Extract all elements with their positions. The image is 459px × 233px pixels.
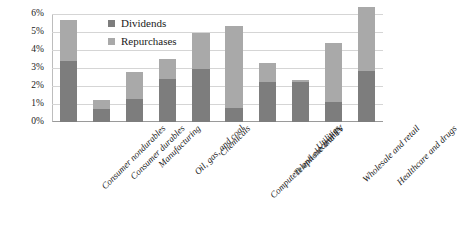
y-axis-tick-label: 5% bbox=[31, 27, 44, 37]
bar-segment-dividends bbox=[60, 61, 77, 122]
legend-item: Dividends bbox=[108, 18, 177, 29]
bars-layer bbox=[52, 14, 383, 122]
plot-area bbox=[52, 14, 383, 122]
bar-group bbox=[192, 33, 209, 122]
bar-segment-repurchases bbox=[292, 80, 309, 83]
legend-item: Repurchases bbox=[108, 36, 177, 47]
y-axis-tick-label: 2% bbox=[31, 81, 44, 91]
bar-group bbox=[358, 7, 375, 122]
bar-segment-repurchases bbox=[259, 63, 276, 83]
bar-group bbox=[159, 59, 176, 122]
bar-segment-repurchases bbox=[192, 33, 209, 69]
bar-segment-repurchases bbox=[93, 100, 110, 110]
bar-segment-dividends bbox=[159, 79, 176, 122]
bar-segment-repurchases bbox=[325, 43, 342, 102]
bar-segment-repurchases bbox=[358, 7, 375, 71]
legend-label: Dividends bbox=[121, 18, 166, 29]
bar-group bbox=[126, 72, 143, 122]
bar-segment-dividends bbox=[93, 109, 110, 122]
bar-segment-dividends bbox=[259, 82, 276, 122]
bar-segment-dividends bbox=[292, 82, 309, 122]
bar-segment-dividends bbox=[358, 71, 375, 122]
chart-legend: DividendsRepurchases bbox=[108, 18, 177, 54]
bar-group bbox=[325, 43, 342, 122]
bar-segment-repurchases bbox=[126, 72, 143, 99]
bar-group bbox=[292, 80, 309, 122]
legend-label: Repurchases bbox=[121, 36, 177, 47]
bar-segment-dividends bbox=[192, 69, 209, 122]
bar-group bbox=[259, 63, 276, 122]
bar-segment-dividends bbox=[225, 108, 242, 122]
y-axis-tick-label: 0% bbox=[31, 117, 44, 127]
y-axis-tick-label: 6% bbox=[31, 9, 44, 19]
bar-segment-dividends bbox=[126, 99, 143, 122]
bar-group bbox=[225, 26, 242, 122]
bar-segment-repurchases bbox=[225, 26, 242, 108]
bar-group bbox=[93, 100, 110, 123]
legend-swatch-icon bbox=[108, 20, 115, 27]
x-axis-labels: Consumer nondurablesConsumer durablesMan… bbox=[52, 124, 383, 229]
y-axis-tick-label: 1% bbox=[31, 99, 44, 109]
y-axis-tick-label: 4% bbox=[31, 45, 44, 55]
y-axis-tick-label: 3% bbox=[31, 63, 44, 73]
bar-group bbox=[60, 20, 77, 122]
bar-segment-repurchases bbox=[159, 59, 176, 79]
bar-segment-repurchases bbox=[60, 20, 77, 61]
y-axis: 0%1%2%3%4%5%6% bbox=[0, 14, 48, 122]
legend-swatch-icon bbox=[108, 38, 115, 45]
bar-segment-dividends bbox=[325, 102, 342, 122]
